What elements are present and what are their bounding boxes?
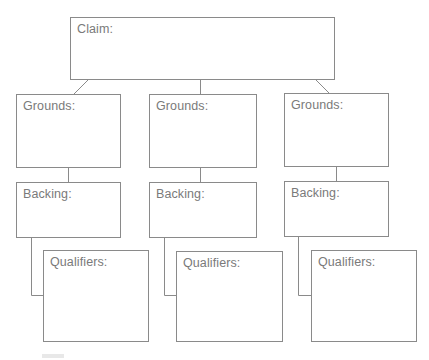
grounds-label: Grounds: [291, 98, 343, 112]
qualifiers-box-3[interactable]: Qualifiers: [311, 250, 417, 342]
claim-box[interactable]: Claim: [70, 17, 335, 80]
backing-label: Backing: [156, 187, 205, 201]
connector-claim-grounds-1 [74, 79, 89, 94]
backing-label: Backing: [291, 186, 340, 200]
grounds-label: Grounds: [156, 99, 208, 113]
backing-box-1[interactable]: Backing: [16, 182, 121, 238]
qualifiers-box-2[interactable]: Qualifiers: [176, 251, 283, 342]
clipped-text-fragment [42, 354, 64, 358]
grounds-box-1[interactable]: Grounds: [16, 94, 121, 168]
grounds-box-3[interactable]: Grounds: [284, 93, 389, 167]
backing-label: Backing: [23, 187, 72, 201]
grounds-label: Grounds: [23, 99, 75, 113]
qualifiers-label: Qualifiers: [183, 256, 240, 270]
grounds-box-2[interactable]: Grounds: [149, 94, 257, 168]
connector-backing-qualifiers-3 [299, 236, 312, 296]
backing-box-3[interactable]: Backing: [284, 181, 389, 237]
qualifiers-label: Qualifiers: [318, 255, 375, 269]
qualifiers-box-1[interactable]: Qualifiers: [43, 250, 149, 342]
connector-claim-grounds-3 [315, 79, 330, 94]
claim-label: Claim: [77, 22, 113, 36]
qualifiers-label: Qualifiers: [50, 255, 107, 269]
backing-box-2[interactable]: Backing: [149, 182, 257, 238]
